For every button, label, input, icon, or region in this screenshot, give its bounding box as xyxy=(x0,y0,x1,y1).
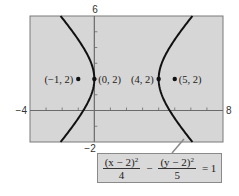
x-min-label: −4 xyxy=(16,105,28,116)
point-marker xyxy=(173,77,177,81)
x-term-numerator: (x − 2) xyxy=(105,156,135,168)
point-marker xyxy=(76,77,80,81)
y-max-label: 6 xyxy=(92,4,98,15)
fraction-y-term: (y − 2)2 5 xyxy=(158,155,196,181)
x-term-denominator: 4 xyxy=(119,169,125,181)
point-label: (5, 2) xyxy=(179,74,202,86)
x-term-exponent: 2 xyxy=(135,156,139,164)
y-term-exponent: 2 xyxy=(190,156,194,164)
point-label: (−1, 2) xyxy=(45,74,74,86)
point-marker xyxy=(92,77,96,81)
point-marker xyxy=(156,77,160,81)
equation-callout: (x − 2)2 4 − (y − 2)2 5 = 1 xyxy=(97,153,222,183)
point-label: (4, 2) xyxy=(131,74,154,86)
x-max-label: 8 xyxy=(226,105,232,116)
y-min-label: −2 xyxy=(84,143,96,154)
y-term-denominator: 5 xyxy=(174,169,180,181)
equation-rhs: = 1 xyxy=(202,162,216,174)
minus-sign: − xyxy=(146,162,152,174)
point-label: (0, 2) xyxy=(98,74,121,86)
fraction-x-term: (x − 2)2 4 xyxy=(103,155,141,181)
y-term-numerator: (y − 2) xyxy=(160,156,190,168)
